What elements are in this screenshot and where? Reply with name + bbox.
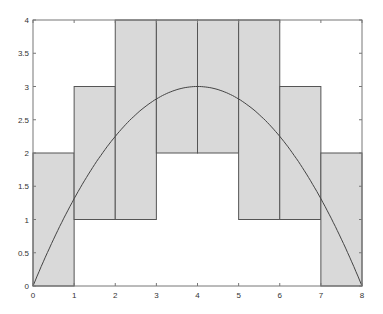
bar <box>74 87 115 220</box>
x-tick-label: 5 <box>236 291 241 300</box>
y-tick-label: 2.5 <box>18 116 30 125</box>
x-tick-label: 6 <box>278 291 283 300</box>
y-tick-label: 0 <box>25 282 30 291</box>
x-tick-label: 7 <box>319 291 324 300</box>
bar <box>115 20 156 220</box>
y-tick-label: 0.5 <box>18 249 30 258</box>
y-tick-label: 3 <box>25 83 30 92</box>
y-tick-label: 3.5 <box>18 49 30 58</box>
x-tick-label: 8 <box>360 291 365 300</box>
x-tick-label: 3 <box>154 291 159 300</box>
bar <box>321 153 362 286</box>
x-tick-label: 0 <box>31 291 36 300</box>
x-tick-label: 2 <box>113 291 118 300</box>
chart: 012345678 00.511.522.533.54 <box>0 0 383 314</box>
x-tick-label: 4 <box>195 291 200 300</box>
bar <box>280 87 321 220</box>
y-tick-label: 4 <box>25 16 30 25</box>
bar <box>239 20 280 220</box>
y-tick-label: 2 <box>25 149 30 158</box>
bars <box>33 20 362 286</box>
y-tick-label: 1.5 <box>18 182 30 191</box>
y-tick-label: 1 <box>25 216 30 225</box>
x-tick-label: 1 <box>72 291 77 300</box>
bar <box>33 153 74 286</box>
